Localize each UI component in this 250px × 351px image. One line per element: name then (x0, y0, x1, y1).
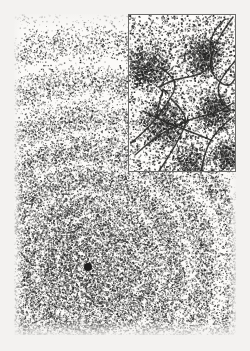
line-right-tail (201, 117, 233, 171)
arrow-upper-left (162, 89, 168, 96)
line-right-branch (218, 61, 235, 109)
domain-boundary-inset (128, 14, 236, 172)
inset-stipple-canvas (129, 15, 235, 171)
figure-root (0, 0, 250, 351)
line-s-curve-main (159, 19, 225, 87)
line-long-descender (135, 103, 233, 155)
line-diagonal-left (131, 67, 175, 143)
line-zigzag-upper-right (210, 17, 235, 85)
boundary-line-overlay (129, 15, 235, 171)
line-lower-cross (143, 111, 213, 141)
arrow-mid (182, 116, 188, 123)
line-lower-zigzag (159, 99, 186, 171)
line-arrow-stub (157, 91, 163, 115)
